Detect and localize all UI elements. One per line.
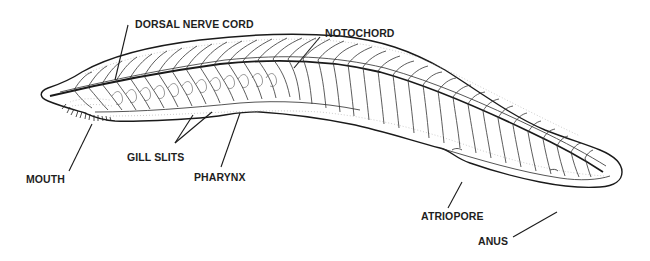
lancelet-diagram: DORSAL NERVE CORD NOTOCHORD GILL SLITS M…: [0, 0, 650, 261]
leader-atriopore: [448, 182, 462, 208]
lancelet-body: [41, 34, 622, 187]
leader-pharynx: [221, 113, 240, 167]
label-anus: ANUS: [478, 235, 508, 247]
label-dorsal-nerve-cord: DORSAL NERVE CORD: [135, 18, 254, 30]
leader-anus: [513, 212, 557, 237]
leader-mouth: [69, 124, 92, 171]
label-notochord: NOTOCHORD: [325, 27, 395, 39]
label-mouth: MOUTH: [26, 173, 65, 185]
label-pharynx: PHARYNX: [194, 171, 246, 183]
label-atriopore: ATRIOPORE: [421, 210, 484, 222]
label-gill-slits: GILL SLITS: [127, 151, 184, 163]
